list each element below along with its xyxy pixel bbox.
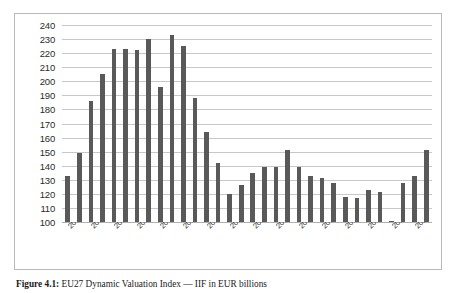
bar xyxy=(227,194,232,222)
figure-caption: Figure 4.1: EU27 Dynamic Valuation Index… xyxy=(16,278,440,290)
bar xyxy=(250,173,255,222)
bar xyxy=(89,101,94,222)
y-tick-label: 200 xyxy=(40,76,55,87)
y-tick-label: 170 xyxy=(40,118,55,129)
bar xyxy=(146,39,151,222)
bar xyxy=(216,163,221,222)
plot-area xyxy=(62,25,432,222)
y-tick-label: 230 xyxy=(40,34,55,45)
bar xyxy=(424,150,429,222)
bar xyxy=(285,150,290,222)
chart-frame: 2402302202102001901801701601501401301201… xyxy=(14,13,442,270)
bar xyxy=(123,49,128,222)
bar xyxy=(158,87,163,222)
caption-label: Figure 4.1: xyxy=(16,279,59,289)
bar xyxy=(274,167,279,222)
y-tick-label: 180 xyxy=(40,104,55,115)
y-tick-label: 160 xyxy=(40,132,55,143)
bar xyxy=(170,35,175,222)
caption-text: EU27 Dynamic Valuation Index — IIF in EU… xyxy=(62,279,267,289)
y-tick-label: 190 xyxy=(40,90,55,101)
y-tick-label: 100 xyxy=(40,217,55,228)
bar xyxy=(100,74,105,222)
bar xyxy=(262,167,267,222)
x-tick-label: 2020 Dec xyxy=(413,222,432,230)
bar xyxy=(112,49,117,222)
bar xyxy=(366,190,371,222)
y-tick-label: 140 xyxy=(40,160,55,171)
x-axis: 2013 Jun*2013 Dec*2014 Jun*2014 Dec*2015… xyxy=(62,222,432,270)
y-tick-label: 150 xyxy=(40,146,55,157)
bar xyxy=(412,176,417,222)
bar xyxy=(204,132,209,222)
bar xyxy=(343,197,348,222)
bar xyxy=(401,183,406,222)
bar xyxy=(320,178,325,222)
bar xyxy=(181,46,186,222)
bar xyxy=(135,50,140,222)
y-tick-label: 210 xyxy=(40,62,55,73)
y-tick-label: 220 xyxy=(40,48,55,59)
bar xyxy=(378,192,383,222)
bar xyxy=(297,167,302,222)
y-tick-label: 130 xyxy=(40,174,55,185)
y-tick-label: 110 xyxy=(40,202,55,213)
bar xyxy=(193,98,198,222)
figure-root: 2402302202102001901801701601501401301201… xyxy=(0,0,456,293)
bar xyxy=(308,176,313,222)
bar xyxy=(65,176,70,222)
y-axis: 2402302202102001901801701601501401301201… xyxy=(15,25,59,222)
bar-series xyxy=(62,25,432,222)
bar xyxy=(77,153,82,222)
y-tick-label: 240 xyxy=(40,20,55,31)
bar xyxy=(331,183,336,222)
y-tick-label: 120 xyxy=(40,188,55,199)
bar xyxy=(239,185,244,222)
bar xyxy=(355,198,360,222)
